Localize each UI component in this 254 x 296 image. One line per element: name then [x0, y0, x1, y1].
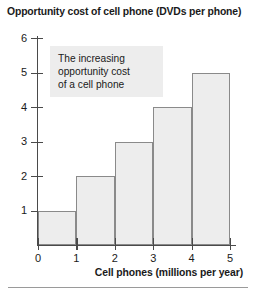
x-axis-tick-label-1: 1 [68, 253, 84, 264]
bar-segment-1 [38, 211, 76, 246]
y-axis-tick-label-4: 4 [12, 102, 27, 113]
y-axis-tick-3 [31, 142, 43, 143]
x-axis-tick-label-2: 2 [107, 253, 123, 264]
bar-segment-5 [192, 73, 230, 246]
annotation-line-2: opportunity cost [58, 65, 163, 78]
bar-segment-4 [153, 107, 191, 245]
x-axis-tick-5 [230, 238, 231, 250]
y-axis-tick-2 [31, 176, 43, 177]
y-axis-tick-5 [31, 73, 43, 74]
chart-title: Opportunity cost of cell phone (DVDs per… [7, 5, 251, 18]
bar-segment-2 [76, 176, 114, 245]
x-axis-tick-2 [115, 238, 116, 250]
x-axis-tick-3 [153, 238, 154, 250]
y-axis-tick-6 [31, 38, 43, 39]
y-axis-tick-label-6: 6 [12, 33, 27, 44]
x-axis-tick-1 [76, 238, 77, 250]
y-axis-tick-label-2: 2 [12, 171, 27, 182]
opportunity-cost-bar-chart: Opportunity cost of cell phone (DVDs per… [0, 0, 254, 296]
y-axis-tick-4 [31, 107, 43, 108]
x-axis-tick-label-0: 0 [30, 253, 46, 264]
annotation-line-3: of a cell phone [58, 78, 163, 91]
x-axis-tick-label-4: 4 [184, 253, 200, 264]
bar-segment-3 [115, 142, 153, 246]
y-axis-tick-label-1: 1 [12, 205, 27, 216]
y-axis-tick-label-3: 3 [12, 136, 27, 147]
footer-rule [8, 287, 248, 288]
y-axis-tick-label-5: 5 [12, 67, 27, 78]
x-axis-tick-label-5: 5 [222, 253, 238, 264]
annotation-callout: The increasing opportunity cost of a cel… [50, 46, 163, 97]
x-axis-tick-label-3: 3 [145, 253, 161, 264]
x-axis-tick-0 [38, 238, 39, 250]
annotation-line-1: The increasing [58, 52, 163, 65]
x-axis-label: Cell phones (millions per year) [0, 267, 243, 278]
x-axis-tick-4 [192, 238, 193, 250]
